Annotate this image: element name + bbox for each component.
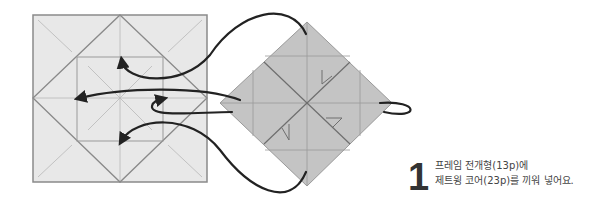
- step-line-1: 프레임 전개형(13p)에: [435, 158, 574, 173]
- frame-square: [33, 15, 207, 182]
- instruction-step: 1 프레임 전개형(13p)에 제트윙 코어(23p)를 끼워 넣어요.: [408, 158, 574, 194]
- core-diamond: [220, 22, 392, 186]
- step-line-2: 제트윙 코어(23p)를 끼워 넣어요.: [435, 173, 574, 188]
- step-text: 프레임 전개형(13p)에 제트윙 코어(23p)를 끼워 넣어요.: [435, 158, 574, 188]
- step-number: 1: [408, 160, 429, 194]
